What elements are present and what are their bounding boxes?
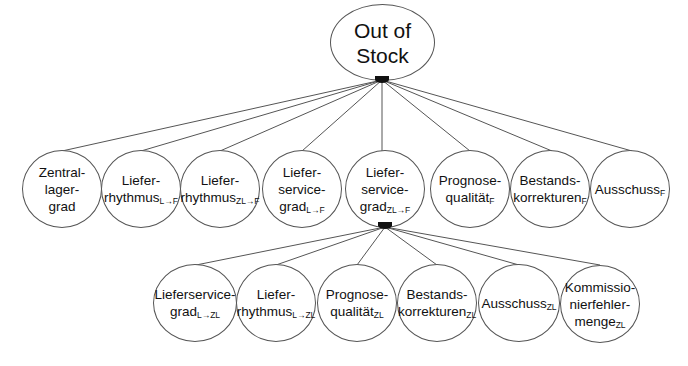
node-lieferrhythmus-l-zl: Liefer-rhythmusL→ZL [236, 264, 316, 342]
node-prognosequalitaet-f: Prognose-qualitätF [430, 150, 510, 228]
node-zentrallagergrad: Zentral-lager-grad [22, 150, 102, 228]
node-ausschuss-f: AusschussF [590, 150, 670, 228]
node-bestandskorrekturen-f: Bestands-korrekturenF [510, 150, 590, 228]
root-label-line2: Stock [354, 43, 411, 68]
node-lieferrhythmus-zl-f: Liefer-rhythmusZL→F [180, 150, 260, 228]
node-lieferservicegrad-zl-f: Liefer-service-gradZL→F [345, 150, 425, 228]
sub-junction-marker [378, 222, 392, 229]
node-prognosequalitaet-zl: Prognose-qualitätZL [317, 264, 397, 342]
node-bestandskorrekturen-zl: Bestands-korrekturenZL [397, 264, 477, 342]
root-label-line1: Out of [354, 18, 411, 43]
node-kommissionierfehlermenge-zl: Kommissio-nierfehler-mengeZL [560, 265, 640, 343]
node-ausschuss-zl: AusschussZL [478, 264, 560, 342]
root-node-out-of-stock: Out of Stock [330, 4, 435, 81]
node-lieferservicegrad-l-zl: Lieferservice-gradL→ZL [153, 264, 237, 342]
node-lieferservicegrad-l-f: Liefer-service-gradL→F [262, 150, 342, 228]
node-lieferrhythmus-l-f: Liefer-rhythmusL→F [101, 150, 181, 228]
root-junction-marker [375, 76, 389, 83]
